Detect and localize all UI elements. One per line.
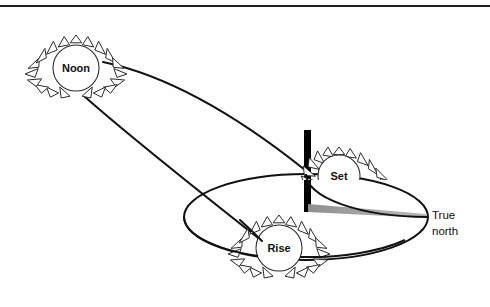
sun-path-diagram-page: Set [0,0,490,307]
diagram-canvas: Set [0,0,490,307]
sun-rise-label: Rise [267,242,290,254]
sun-noon-label: Noon [62,62,90,74]
true-north-label-line2: north [432,225,458,237]
true-north-label-line1: True [432,209,455,221]
